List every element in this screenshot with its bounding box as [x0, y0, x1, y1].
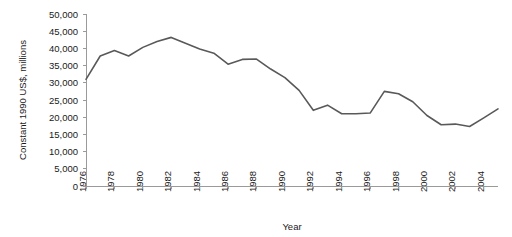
y-tick-label: 50,000 [49, 9, 78, 20]
y-tick-label: 15,000 [49, 129, 78, 140]
y-tick-label: 30,000 [49, 77, 78, 88]
data-series-line [86, 37, 498, 126]
chart-container: 05,00010,00015,00020,00025,00030,00035,0… [0, 0, 512, 237]
y-tick-label: 25,000 [49, 95, 78, 106]
y-tick-label: 40,000 [49, 43, 78, 54]
y-tick-label: 35,000 [49, 60, 78, 71]
y-tick-label: 45,000 [49, 26, 78, 37]
line-chart: 05,00010,00015,00020,00025,00030,00035,0… [0, 0, 512, 237]
y-axis-tick-labels: 05,00010,00015,00020,00025,00030,00035,0… [49, 9, 78, 192]
x-axis-title: Year [282, 221, 301, 232]
y-tick-label: 10,000 [49, 146, 78, 157]
y-axis-title: Constant 1990 US$, millions [17, 40, 28, 160]
y-tick-label: 5,000 [54, 163, 78, 174]
x-axis-tick-labels: 1976197819801982198419861988199019921994… [77, 171, 486, 192]
y-tick-label: 20,000 [49, 112, 78, 123]
